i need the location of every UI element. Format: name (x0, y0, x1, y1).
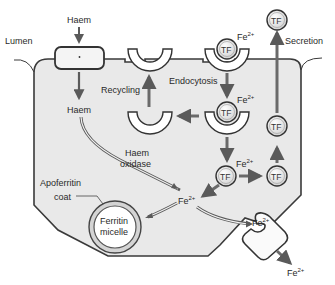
lumen-membrane-right (301, 58, 322, 70)
haem-transporter (55, 47, 104, 69)
haem-oxidase-label-1: Haem (125, 148, 149, 158)
haem-cell-label: Haem (67, 105, 91, 115)
apoferritin-label-2: coat (54, 192, 72, 202)
lumen-membrane-left (14, 60, 34, 72)
tf-label: TF (220, 172, 230, 182)
tf-label: TF (271, 172, 281, 182)
transporter-dot (79, 56, 81, 58)
tf-label: TF (271, 16, 281, 26)
fe-label-surface: Fe2+ (237, 31, 255, 42)
secretion-label: Secretion (285, 36, 323, 46)
tf-label: TF (271, 122, 281, 132)
iron-absorption-diagram: Lumen Haem Haem Haem oxidase Recycling T… (0, 0, 335, 285)
apoferritin-label-1: Apoferritin (40, 178, 81, 188)
tf-apo: TF (267, 166, 287, 186)
haem-lumen-label: Haem (67, 15, 91, 25)
tf-secreted: TF (267, 10, 287, 30)
tf-mid-right: TF (267, 116, 287, 136)
fe-label-exported: Fe2+ (287, 267, 305, 278)
tf-label: TF (221, 108, 231, 118)
tf-label: TF (221, 45, 231, 55)
endocytosis-label: Endocytosis (169, 76, 218, 86)
haem-oxidase-label-2: oxidase (120, 159, 151, 169)
recycling-label: Recycling (101, 85, 140, 95)
tf-cytoplasm: TF (216, 166, 236, 186)
ferritin-label-1: Ferritin (100, 216, 128, 226)
lumen-label: Lumen (5, 36, 33, 46)
ferritin-label-2: micelle (100, 227, 128, 237)
fe-export-arrow (277, 251, 290, 263)
